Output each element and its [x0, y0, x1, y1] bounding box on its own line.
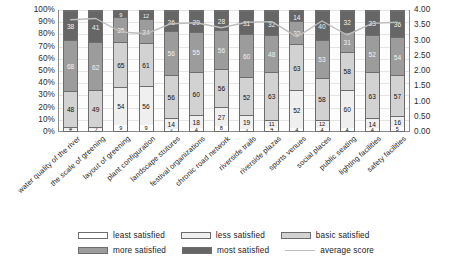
bar-segment[interactable]: 12 [316, 120, 329, 129]
legend-item[interactable]: less satisfied [181, 231, 265, 240]
bar-segment[interactable]: 52 [240, 77, 253, 115]
bar-segment[interactable]: 63 [366, 72, 379, 118]
x-axis-category-labels: water quality of the riverthe scale of g… [58, 134, 410, 214]
bar-column[interactable]: 460583132 [340, 10, 355, 132]
bar-segment[interactable]: 52 [366, 35, 379, 73]
bar-column[interactable]: 827565628 [214, 10, 229, 132]
bar-segment[interactable]: 9 [114, 125, 127, 131]
bar-segment[interactable]: 31 [341, 32, 354, 52]
legend-color-swatch [181, 232, 211, 239]
legend-row-1: least satisfiedless satisfiedbasic satis… [78, 228, 408, 243]
bar-segment[interactable]: 58 [341, 52, 354, 90]
bar-segment[interactable]: 49 [89, 90, 102, 127]
bar-segment[interactable]: 2 [64, 130, 77, 132]
bar-segment[interactable]: 8 [215, 126, 228, 131]
bar-segment[interactable]: 54 [114, 87, 127, 125]
bar-segment[interactable]: 3 [240, 129, 253, 131]
bar-segment[interactable]: 34 [140, 19, 153, 43]
legend-item[interactable]: most satisfied [182, 246, 269, 255]
bar-segment[interactable]: 52 [290, 90, 303, 128]
bar-segment[interactable]: 63 [265, 72, 278, 120]
bar-segment[interactable]: 32 [290, 21, 303, 44]
bar-column[interactable]: 516575436 [390, 10, 405, 132]
bar-segment[interactable]: 29 [190, 11, 203, 32]
bar-segment-value: 58 [341, 68, 354, 75]
bar-segment[interactable]: 35 [114, 17, 127, 41]
bar-column[interactable]: 414635233 [365, 10, 380, 132]
legend-item[interactable]: more satisfied [78, 246, 166, 255]
bar-segment[interactable]: 62 [89, 42, 102, 89]
bar-segment[interactable]: 32 [265, 11, 278, 35]
bar-segment[interactable]: 48 [64, 91, 77, 127]
bar-segment[interactable]: 61 [140, 43, 153, 86]
bar-segment[interactable]: 14 [290, 11, 303, 21]
bar-segment[interactable]: 12 [140, 11, 153, 19]
bar-segment[interactable]: 3 [165, 129, 178, 131]
legend-item[interactable]: average score [285, 246, 374, 255]
bar-segment[interactable]: 9 [140, 125, 153, 131]
bar-segment[interactable]: 4 [366, 128, 379, 131]
bar-segment[interactable]: 14 [165, 118, 178, 129]
bar-column[interactable]: 23496241 [88, 10, 103, 132]
bar-segment[interactable]: 56 [215, 30, 228, 68]
bar-segment[interactable]: 55 [190, 32, 203, 72]
bar-segment[interactable]: 68 [64, 40, 77, 91]
bar-segment-value: 63 [290, 64, 303, 71]
bar-column[interactable]: 411634832 [264, 10, 279, 132]
bar-segment[interactable]: 60 [341, 90, 354, 129]
bar-segment[interactable]: 53 [316, 40, 329, 78]
bar-segment[interactable]: 32 [341, 11, 354, 32]
bar-segment[interactable]: 41 [89, 11, 102, 42]
bar-segment[interactable]: 2 [89, 129, 102, 131]
bar-column[interactable]: 452633214 [289, 10, 304, 132]
bar-segment[interactable]: 28 [215, 11, 228, 30]
bar-segment[interactable]: 11 [265, 120, 278, 128]
bar-segment[interactable]: 56 [215, 69, 228, 107]
bar-column[interactable]: 314565626 [164, 10, 179, 132]
bar-segment[interactable]: 56 [165, 31, 178, 74]
bar-segment[interactable]: 33 [366, 11, 379, 35]
bar-segment[interactable]: 5 [391, 127, 404, 131]
bar-segment[interactable]: 57 [391, 75, 404, 116]
bar-segment[interactable]: 4 [190, 128, 203, 131]
bar-segment[interactable]: 4 [290, 128, 303, 131]
bar-segment[interactable]: 65 [114, 42, 127, 87]
stacked-bar-chart: 100%90%80%70%60%50%40%30%20%10%0% 4.003.… [0, 0, 467, 270]
bar-segment[interactable]: 56 [140, 86, 153, 125]
bar-segment[interactable]: 18 [190, 115, 203, 128]
bar-segment-value: 41 [89, 24, 102, 31]
bar-segment[interactable]: 16 [391, 116, 404, 127]
bar-segment[interactable]: 19 [240, 115, 253, 129]
bar-segment[interactable]: 31 [240, 11, 253, 34]
bar-segment[interactable]: 60 [190, 72, 203, 115]
bar-column[interactable]: 418605529 [189, 10, 204, 132]
bar-segment[interactable]: 56 [165, 75, 178, 118]
bar-segment[interactable]: 4 [265, 128, 278, 131]
bar-segment-value: 4 [290, 128, 303, 131]
bar-segment[interactable]: 38 [64, 11, 77, 40]
bar-segment[interactable]: 3 [89, 127, 102, 129]
bar-segment[interactable]: 27 [215, 107, 228, 126]
bar-segment[interactable]: 60 [240, 34, 253, 78]
bar-column[interactable]: 319526031 [239, 10, 254, 132]
bar-segment[interactable]: 4 [341, 128, 354, 131]
bar-segment[interactable]: 36 [391, 11, 404, 37]
bar-segment[interactable]: 4 [64, 127, 77, 130]
bar-segment[interactable]: 54 [391, 37, 404, 76]
bar-segment[interactable]: 9 [114, 11, 127, 17]
bar-segment[interactable]: 48 [265, 35, 278, 71]
bar-segment[interactable]: 58 [316, 78, 329, 120]
bar-segment[interactable]: 14 [366, 118, 379, 128]
legend-item[interactable]: basic satisfied [281, 231, 370, 240]
bar-column[interactable]: 24486838 [63, 10, 78, 132]
bar-segment[interactable]: 4 [316, 128, 329, 131]
bar-column[interactable]: 95465359 [113, 10, 128, 132]
bar-column[interactable]: 412585340 [315, 10, 330, 132]
y-axis-left-tick: 40% [10, 78, 55, 88]
bar-segment[interactable]: 63 [290, 44, 303, 90]
bar-segment[interactable]: 26 [165, 11, 178, 31]
bar-column[interactable]: 956613412 [139, 10, 154, 132]
legend-item[interactable]: least satisfied [78, 231, 165, 240]
bar-segment[interactable]: 40 [316, 11, 329, 40]
bar-segment-value: 9 [114, 11, 127, 17]
